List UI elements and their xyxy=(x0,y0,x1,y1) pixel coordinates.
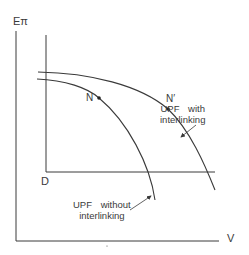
upf-diagram: Eπ V D N N′ UPF with interlinking UPF wi… xyxy=(0,0,249,255)
origin-label: D xyxy=(41,176,49,187)
upf-with-interlinking-label: UPF with interlinking xyxy=(160,103,205,125)
upf-with-label-line1: UPF with xyxy=(160,103,205,114)
point-n-label: N xyxy=(86,93,93,103)
x-axis-label: V xyxy=(227,233,234,244)
upf-with-label-line2: interlinking xyxy=(160,114,205,125)
x-axis-tick-dot xyxy=(106,245,107,246)
y-axis-label: Eπ xyxy=(13,16,28,27)
upf-without-label-line1: UPF without xyxy=(73,199,131,210)
upf-without-label-line2: interlinking xyxy=(73,210,131,221)
point-n-marker xyxy=(97,96,101,100)
upf-without-interlinking-curve xyxy=(37,79,155,200)
upf-without-interlinking-label: UPF without interlinking xyxy=(73,199,131,221)
without-interlinking-leader-arrow xyxy=(130,196,151,210)
